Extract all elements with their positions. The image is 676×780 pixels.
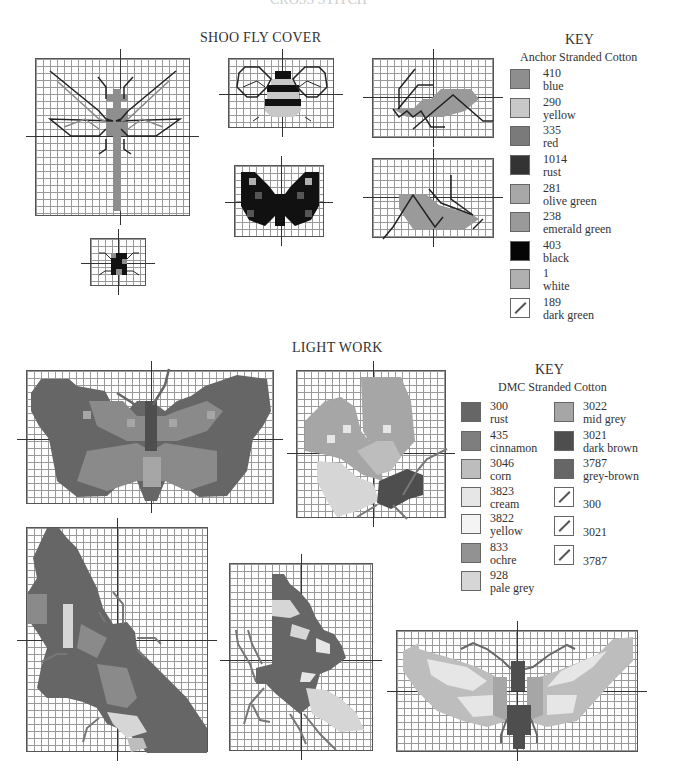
chart-bee bbox=[228, 58, 334, 128]
key-name: grey-brown bbox=[583, 470, 639, 483]
chart-butterfly-wide bbox=[26, 370, 274, 504]
moth-pattern bbox=[397, 631, 639, 753]
swatch-dmc-3787-line bbox=[554, 545, 574, 565]
swatch-anchor-403 bbox=[510, 241, 530, 261]
key-subtitle-dmc: DMC Stranded Cotton bbox=[498, 380, 607, 395]
key-name: olive green bbox=[543, 195, 597, 208]
dragonfly-pattern bbox=[36, 59, 191, 217]
butterfly-profile-pattern bbox=[230, 564, 374, 752]
page-title: CROSS STITCH bbox=[270, 0, 367, 8]
key-name: black bbox=[543, 252, 569, 265]
key-name: red bbox=[543, 137, 558, 150]
key-subtitle-anchor: Anchor Stranded Cotton bbox=[520, 50, 637, 65]
grasshopper-bottom-pattern bbox=[373, 159, 495, 239]
key-title-dmc: KEY bbox=[535, 362, 564, 378]
swatch-anchor-189-line bbox=[510, 298, 530, 318]
swatch-anchor-238 bbox=[510, 212, 530, 232]
chart-ladybird bbox=[90, 238, 146, 286]
butterfly-wide-pattern bbox=[27, 371, 275, 505]
chart-butterfly-black bbox=[234, 165, 324, 237]
key-name: pale grey bbox=[490, 582, 534, 595]
key-name: corn bbox=[490, 470, 511, 483]
key-name: blue bbox=[543, 80, 564, 93]
chart-butterfly-diagonal bbox=[26, 527, 208, 752]
swatch-dmc-435 bbox=[461, 431, 481, 451]
swatch-dmc-3021-line bbox=[554, 516, 574, 536]
key-name: yellow bbox=[543, 109, 576, 122]
key-name: mid grey bbox=[583, 413, 626, 426]
swatch-anchor-1014 bbox=[510, 155, 530, 175]
swatch-dmc-3822 bbox=[461, 514, 481, 534]
swatch-dmc-3021 bbox=[554, 431, 574, 451]
grasshopper-top-pattern bbox=[373, 59, 495, 139]
key-name: emerald green bbox=[543, 223, 611, 236]
key-name: cinnamon bbox=[490, 442, 537, 455]
key-name: rust bbox=[490, 413, 508, 426]
ladybird-pattern bbox=[91, 239, 147, 287]
swatch-anchor-335 bbox=[510, 126, 530, 146]
chart-moth bbox=[396, 630, 638, 752]
swatch-dmc-3823 bbox=[461, 487, 481, 507]
key-name: cream bbox=[490, 498, 519, 511]
key-code: 300 bbox=[583, 498, 601, 511]
bee-pattern bbox=[229, 59, 335, 129]
swatch-anchor-290 bbox=[510, 98, 530, 118]
swatch-anchor-281 bbox=[510, 184, 530, 204]
key-code: 3021 bbox=[583, 526, 607, 539]
key-title-anchor: KEY bbox=[565, 32, 594, 48]
section-heading-shoo-fly: SHOO FLY COVER bbox=[200, 30, 321, 46]
swatch-dmc-3022 bbox=[554, 402, 574, 422]
key-name: dark green bbox=[543, 309, 594, 322]
section-heading-light-work: LIGHT WORK bbox=[292, 340, 383, 356]
key-name: rust bbox=[543, 166, 561, 179]
butterfly-black-pattern bbox=[235, 166, 325, 238]
swatch-dmc-3787 bbox=[554, 459, 574, 479]
chart-butterfly-side bbox=[296, 370, 446, 518]
key-name: dark brown bbox=[583, 442, 638, 455]
butterfly-diagonal-pattern bbox=[27, 528, 209, 753]
swatch-anchor-1 bbox=[510, 269, 530, 289]
key-code: 3787 bbox=[583, 555, 607, 568]
key-name: yellow bbox=[490, 525, 523, 538]
chart-grasshopper-bottom bbox=[372, 158, 494, 238]
swatch-dmc-300-line bbox=[554, 487, 574, 507]
swatch-dmc-3046 bbox=[461, 459, 481, 479]
chart-butterfly-profile bbox=[229, 563, 373, 751]
butterfly-side-pattern bbox=[297, 371, 447, 519]
chart-dragonfly bbox=[35, 58, 190, 216]
swatch-dmc-300 bbox=[461, 402, 481, 422]
swatch-dmc-928 bbox=[461, 571, 481, 591]
key-name: ochre bbox=[490, 554, 517, 567]
chart-grasshopper-top bbox=[372, 58, 494, 138]
key-name: white bbox=[543, 280, 570, 293]
swatch-dmc-833 bbox=[461, 543, 481, 563]
swatch-anchor-410 bbox=[510, 69, 530, 89]
